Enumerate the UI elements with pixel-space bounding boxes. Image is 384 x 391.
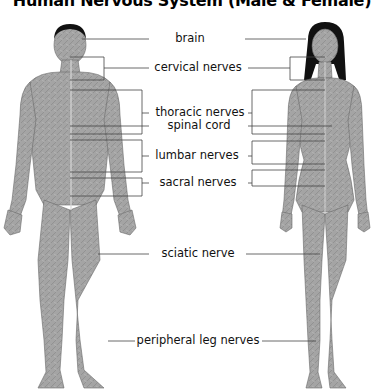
label-lumbar-nerves: lumbar nerves — [155, 149, 238, 162]
female-figure — [280, 22, 370, 388]
male-figure — [4, 24, 136, 388]
label-brain: brain — [175, 32, 205, 45]
label-sacral-nerves: sacral nerves — [160, 176, 237, 189]
label-spinal-cord: spinal cord — [168, 119, 231, 132]
label-sciatic-nerve: sciatic nerve — [161, 247, 234, 260]
label-peripheral-leg-nerves: peripheral leg nerves — [137, 334, 260, 347]
label-cervical-nerves: cervical nerves — [154, 61, 241, 74]
